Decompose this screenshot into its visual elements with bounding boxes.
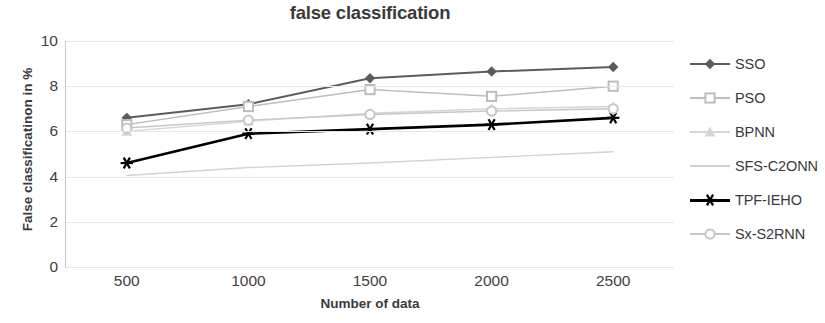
y-axis-tick-label: 6 — [12, 122, 58, 140]
gridline — [66, 222, 674, 223]
gridline — [66, 86, 674, 87]
gridline — [66, 267, 674, 268]
y-axis-tick-label: 2 — [12, 213, 58, 231]
false-classification-line-chart: false classification False classificatin… — [0, 0, 825, 323]
gridline — [66, 131, 674, 132]
legend-item-tpf-ieho[interactable]: TPF-IEHO — [690, 183, 825, 217]
legend-label: SSO — [735, 56, 765, 72]
y-axis-tick-label: 4 — [12, 168, 58, 186]
chart-title: false classification — [150, 2, 590, 24]
diamond-marker — [705, 59, 715, 69]
diamond-marker — [365, 73, 375, 83]
legend-swatch-star-icon — [690, 191, 730, 209]
legend-item-sso[interactable]: SSO — [690, 47, 825, 81]
legend-swatch-none-icon — [690, 157, 730, 175]
gridline — [66, 41, 674, 42]
legend-swatch-diamond-icon — [690, 55, 730, 73]
legend-swatch-square-icon — [690, 89, 730, 107]
circle-marker — [244, 116, 253, 125]
legend-item-pso[interactable]: PSO — [690, 81, 825, 115]
legend-label: SFS-C2ONN — [735, 158, 818, 174]
chart-legend: SSOPSOBPNNSFS-C2ONNTPF-IEHOSx-S2RNN — [690, 47, 825, 251]
x-axis-title: Number of data — [60, 296, 680, 311]
legend-item-sfs-c2onn[interactable]: SFS-C2ONN — [690, 149, 825, 183]
legend-item-sx-s2rnn[interactable]: Sx-S2RNN — [690, 217, 825, 251]
square-marker — [487, 92, 496, 101]
star-marker — [704, 195, 716, 206]
circle-marker — [705, 229, 714, 238]
circle-marker — [609, 104, 618, 113]
legend-swatch-triangle-icon — [690, 123, 730, 141]
y-axis-tick-label: 8 — [12, 77, 58, 95]
diamond-marker — [608, 62, 618, 72]
x-axis-tick-label: 2000 — [447, 272, 537, 290]
series-sfs-c2onn — [127, 152, 613, 176]
circle-marker — [365, 110, 374, 119]
square-marker — [705, 93, 714, 102]
star-marker — [242, 128, 254, 139]
star-marker — [485, 119, 497, 130]
x-axis-tick-label: 1500 — [325, 272, 415, 290]
legend-swatch-circle-icon — [690, 225, 730, 243]
square-marker — [244, 102, 253, 111]
legend-label: BPNN — [735, 124, 775, 140]
x-axis-tick-label: 1000 — [203, 272, 293, 290]
x-axis-tick-labels: 5001000150020002500 — [66, 272, 674, 296]
legend-label: TPF-IEHO — [735, 192, 802, 208]
circle-marker — [487, 106, 496, 115]
triangle-marker — [705, 127, 716, 137]
legend-label: Sx-S2RNN — [735, 226, 805, 242]
y-axis-tick-label: 0 — [12, 258, 58, 276]
gridline — [66, 177, 674, 178]
series-tpf-ieho — [121, 112, 620, 168]
star-marker — [364, 124, 376, 135]
y-axis-tick-label: 10 — [12, 32, 58, 50]
x-axis-tick-label: 500 — [82, 272, 172, 290]
legend-item-bpnn[interactable]: BPNN — [690, 115, 825, 149]
diamond-marker — [486, 66, 496, 76]
x-axis-tick-label: 2500 — [568, 272, 658, 290]
legend-label: PSO — [735, 90, 765, 106]
y-axis-tick-labels: 0246810 — [6, 41, 58, 267]
plot-area — [66, 41, 674, 267]
chart-series-svg — [66, 41, 674, 267]
star-marker — [121, 158, 133, 169]
